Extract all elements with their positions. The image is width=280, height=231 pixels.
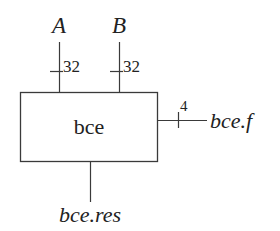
input-b-width: 32 bbox=[123, 57, 140, 76]
block-diagram: bce A 32 B 32 4 bce.f bce.res bbox=[0, 0, 280, 231]
input-b-wire bbox=[110, 42, 123, 92]
input-a-wire bbox=[50, 42, 63, 92]
output-f-wire bbox=[158, 112, 207, 128]
input-a-label: A bbox=[50, 13, 67, 38]
output-f-width: 4 bbox=[180, 98, 188, 114]
bce-block-label: bce bbox=[74, 114, 105, 139]
input-b-label: B bbox=[112, 13, 126, 38]
output-f-label: bce.f bbox=[210, 108, 255, 133]
input-a-width: 32 bbox=[63, 57, 80, 76]
output-res-label: bce.res bbox=[59, 202, 121, 227]
